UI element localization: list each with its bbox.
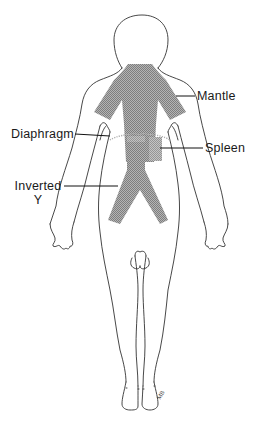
spleen-label: Spleen <box>205 141 245 155</box>
inverted-y-label: Inverted Y <box>12 179 64 207</box>
inverted-y-label-line2: Y <box>12 193 64 207</box>
diaphragm-label: Diaphragm <box>11 127 74 141</box>
mantle-label: Mantle <box>197 89 236 103</box>
diaphragm-leader <box>75 134 110 136</box>
radiation-fields-diagram: Mantle Diaphragm Spleen Inverted Y MB <box>0 0 256 424</box>
inverted-y-label-line1: Inverted <box>12 179 64 193</box>
head-outline <box>114 15 168 68</box>
spleen-field <box>149 137 162 161</box>
body-figure <box>0 0 256 424</box>
